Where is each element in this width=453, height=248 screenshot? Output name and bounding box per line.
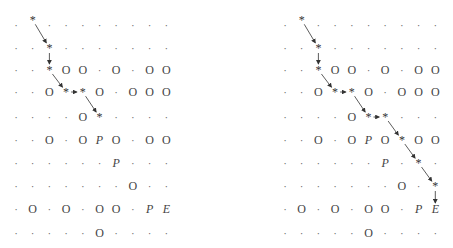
path-node: *	[427, 176, 443, 196]
obstacle: O	[394, 82, 410, 102]
grid-dot: ·	[327, 107, 343, 127]
grid-dot: ·	[394, 199, 410, 219]
path-node: *	[294, 10, 310, 30]
grid-dot: ·	[427, 107, 443, 127]
grid-dot: ·	[294, 223, 310, 243]
grid-dot: ·	[394, 107, 410, 127]
obstacle: O	[344, 130, 360, 150]
grid-dot: ·	[377, 223, 393, 243]
grid-dot: ·	[427, 223, 443, 243]
obstacle: O	[294, 199, 310, 219]
grid-dot: ·	[277, 153, 293, 173]
grid-dot: ·	[277, 38, 293, 58]
obstacle: O	[344, 60, 360, 80]
grid-dot: ·	[361, 176, 377, 196]
path-node: *	[327, 82, 343, 102]
right-grid: ·*··········*·········*OO·O·OO··O**O·OOO…	[0, 0, 453, 248]
grid-dot: ·	[361, 15, 377, 35]
grid-dot: ·	[277, 223, 293, 243]
grid-dot: ·	[361, 153, 377, 173]
obstacle: O	[327, 199, 343, 219]
obstacle: O	[427, 82, 443, 102]
grid-dot: ·	[294, 38, 310, 58]
grid-dot: ·	[394, 15, 410, 35]
obstacle: O	[377, 60, 393, 80]
obstacle: O	[411, 82, 427, 102]
grid-dot: ·	[411, 176, 427, 196]
pedestrian-marker: P	[411, 199, 427, 219]
grid-dot: ·	[377, 176, 393, 196]
grid-dot: ·	[344, 15, 360, 35]
path-node: *	[344, 82, 360, 102]
grid-dot: ·	[327, 223, 343, 243]
obstacle: O	[310, 130, 326, 150]
obstacle: O	[377, 130, 393, 150]
grid-dot: ·	[277, 82, 293, 102]
obstacle: O	[427, 60, 443, 80]
grid-dot: ·	[344, 38, 360, 58]
obstacle: O	[377, 199, 393, 219]
exit-marker: E	[427, 199, 443, 219]
grid-dot: ·	[411, 38, 427, 58]
grid-dot: ·	[310, 176, 326, 196]
grid-dot: ·	[277, 107, 293, 127]
grid-dot: ·	[411, 223, 427, 243]
obstacle: O	[427, 130, 443, 150]
grid-dot: ·	[277, 176, 293, 196]
grid-dot: ·	[427, 153, 443, 173]
grid-dot: ·	[394, 38, 410, 58]
obstacle: O	[344, 107, 360, 127]
grid-dot: ·	[294, 60, 310, 80]
grid-dot: ·	[394, 60, 410, 80]
path-node: *	[361, 107, 377, 127]
grid-dot: ·	[277, 130, 293, 150]
grid-dot: ·	[344, 199, 360, 219]
grid-dot: ·	[310, 223, 326, 243]
obstacle: O	[411, 130, 427, 150]
grid-dot: ·	[327, 153, 343, 173]
grid-dot: ·	[377, 15, 393, 35]
grid-dot: ·	[310, 107, 326, 127]
grid-dot: ·	[294, 176, 310, 196]
grid-dot: ·	[377, 82, 393, 102]
grid-dot: ·	[411, 107, 427, 127]
grid-dot: ·	[294, 107, 310, 127]
obstacle: O	[394, 176, 410, 196]
grid-dot: ·	[310, 15, 326, 35]
grid-dot: ·	[294, 130, 310, 150]
grid-dot: ·	[344, 176, 360, 196]
obstacle: O	[310, 82, 326, 102]
grid-dot: ·	[277, 15, 293, 35]
path-node: *	[310, 38, 326, 58]
grid-dot: ·	[310, 199, 326, 219]
grid-dot: ·	[427, 15, 443, 35]
grid-dot: ·	[327, 130, 343, 150]
path-node: *	[377, 107, 393, 127]
grid-dot: ·	[277, 199, 293, 219]
grid-dot: ·	[377, 38, 393, 58]
grid-dot: ·	[294, 153, 310, 173]
grid-dot: ·	[361, 38, 377, 58]
grid-dot: ·	[277, 60, 293, 80]
grid-dot: ·	[344, 153, 360, 173]
obstacle: O	[361, 82, 377, 102]
grid-dot: ·	[344, 223, 360, 243]
grid-dot: ·	[327, 15, 343, 35]
obstacle: O	[411, 60, 427, 80]
pedestrian-marker: P	[377, 153, 393, 173]
obstacle: O	[361, 223, 377, 243]
grid-dot: ·	[394, 223, 410, 243]
path-node: *	[310, 60, 326, 80]
pedestrian-marker: P	[361, 130, 377, 150]
obstacle: O	[327, 60, 343, 80]
grid-dot: ·	[427, 38, 443, 58]
grid-dot: ·	[411, 15, 427, 35]
grid-dot: ·	[294, 82, 310, 102]
path-node: *	[394, 130, 410, 150]
grid-dot: ·	[361, 60, 377, 80]
path-node: *	[411, 153, 427, 173]
obstacle: O	[361, 199, 377, 219]
grid-dot: ·	[327, 176, 343, 196]
grid-dot: ·	[310, 153, 326, 173]
grid-dot: ·	[327, 38, 343, 58]
